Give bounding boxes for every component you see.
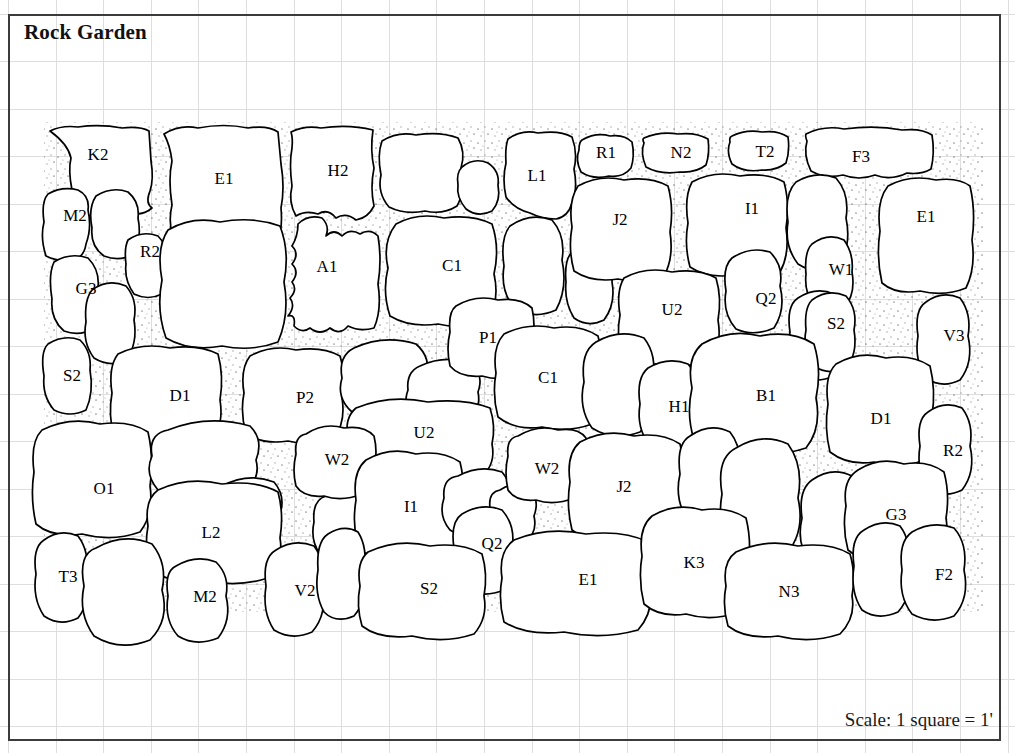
stone-E1-right	[878, 178, 973, 293]
stone-label: K2	[88, 145, 109, 164]
stone-hatch-b1	[82, 539, 164, 645]
stone-label: S2	[63, 366, 81, 385]
stone-hatch-big1	[160, 220, 287, 349]
stone-label: U2	[662, 300, 683, 319]
stone-label: C1	[538, 368, 558, 387]
stone-label: V3	[944, 326, 965, 345]
stone-label: W1	[829, 260, 854, 279]
stone-label: R1	[596, 143, 616, 162]
stone-label: L2	[202, 523, 221, 542]
stone-label: P1	[479, 328, 497, 347]
stone-label: H2	[328, 161, 349, 180]
stone-label: T3	[59, 567, 78, 586]
stone-label: N3	[779, 582, 800, 601]
stone-label: I1	[745, 199, 759, 218]
stone-label: Q2	[756, 289, 777, 308]
stone-label: T2	[756, 142, 775, 161]
stone-label: E1	[579, 570, 598, 589]
stone-label: D1	[871, 409, 892, 428]
stone-label: G3	[886, 505, 907, 524]
stone-label: N2	[671, 143, 692, 162]
stone-J2-upper	[570, 178, 671, 281]
stone-O1	[32, 421, 151, 537]
stone-label: I1	[404, 497, 418, 516]
stone-label: J2	[612, 210, 627, 229]
stone-hatch-top2	[458, 161, 499, 214]
stone-label: M2	[63, 206, 87, 225]
stone-label: G3	[76, 279, 97, 298]
stone-label: J2	[616, 477, 631, 496]
stone-label: S2	[827, 314, 845, 333]
stone-label: F2	[935, 565, 953, 584]
stone-label: R2	[943, 441, 963, 460]
rock-garden-plan: K2E1H2L1R1N2T2F3M2R2G3A1C1J2I1E1W1Q2U2S2…	[0, 0, 1015, 753]
scale-note: Scale: 1 square = 1'	[845, 709, 993, 731]
stone-label: W2	[325, 450, 350, 469]
stone-label: W2	[535, 459, 560, 478]
stone-label: B1	[756, 386, 776, 405]
stone-label: F3	[852, 147, 870, 166]
stone-label: H1	[669, 397, 690, 416]
stone-label: U2	[414, 423, 435, 442]
stone-label: K3	[684, 553, 705, 572]
stone-label: V2	[295, 581, 316, 600]
stone-label: P2	[296, 388, 314, 407]
stone-label: R2	[140, 242, 160, 261]
stone-label: M2	[193, 587, 217, 606]
stone-label: C1	[442, 256, 462, 275]
stone-label: E1	[215, 169, 234, 188]
stone-label: O1	[94, 479, 115, 498]
stone-label: L1	[528, 166, 547, 185]
page-title: Rock Garden	[24, 20, 147, 45]
stone-label: D1	[170, 386, 191, 405]
stone-label: S2	[420, 579, 438, 598]
stone-layer: K2E1H2L1R1N2T2F3M2R2G3A1C1J2I1E1W1Q2U2S2…	[0, 0, 1015, 753]
stone-hatch-top1	[379, 134, 463, 213]
stone-label: A1	[317, 257, 338, 276]
stone-E1-bottom	[500, 531, 651, 635]
stone-F2	[901, 525, 966, 620]
stone-label: Q2	[482, 534, 503, 553]
stone-label: E1	[917, 207, 936, 226]
